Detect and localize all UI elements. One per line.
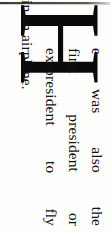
text-line-1: e was also the (86, 48, 109, 226)
word: fly (39, 208, 62, 226)
word: was (86, 89, 109, 113)
word: ex-president (39, 48, 62, 126)
paragraph-block: H e was also the first president or ex-p… (0, 0, 110, 234)
text-line-2: first president or (63, 48, 86, 226)
word: e (86, 48, 109, 55)
text-line-3: ex-president to fly (39, 48, 62, 226)
word: or (63, 213, 86, 226)
word: first (63, 48, 86, 73)
word: president (63, 114, 86, 172)
word: also (86, 147, 109, 172)
word: to (39, 161, 62, 173)
scanned-page: H e was also the first president or ex-p… (0, 0, 110, 234)
rotated-text-container: H e was also the first president or ex-p… (0, 0, 110, 234)
paragraph-lines: e was also the first president or ex-pre… (16, 48, 109, 230)
word: the (86, 207, 109, 226)
text-line-4: in an airplane. (16, 0, 39, 226)
